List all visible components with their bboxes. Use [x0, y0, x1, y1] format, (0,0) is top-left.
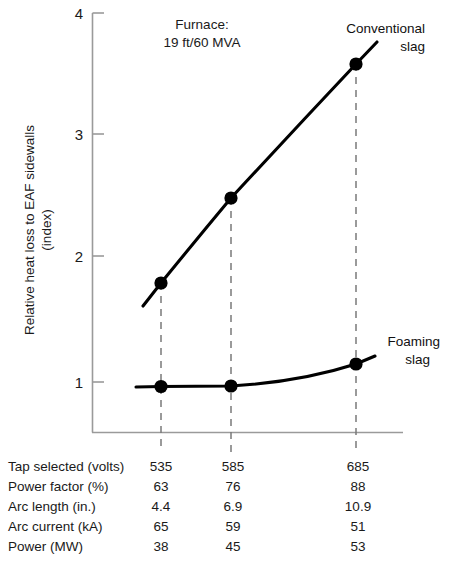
- table-cell-value: 59: [225, 519, 240, 534]
- table-row-label: Arc current (kA): [8, 519, 103, 534]
- table-cell-value: 685: [347, 459, 370, 474]
- y-tick-label-4: 4: [75, 5, 83, 22]
- conventional-slag-point-3: [349, 57, 362, 70]
- furnace-annotation-line1: Furnace:: [175, 17, 228, 32]
- y-axis-title-line2: (index): [39, 209, 54, 250]
- table-cell-value: 4.4: [152, 499, 171, 514]
- table-row-label: Power factor (%): [8, 479, 109, 494]
- table-row: Power (MW) 38 45 53: [8, 539, 366, 554]
- conventional-slag-line: [143, 42, 377, 306]
- table-row: Arc current (kA) 65 59 51: [8, 519, 366, 534]
- data-table: Tap selected (volts) 535 585 685 Power f…: [8, 459, 371, 554]
- table-row: Power factor (%) 63 76 88: [8, 479, 366, 494]
- y-tick-label-2: 2: [75, 248, 83, 265]
- table-cell-value: 51: [350, 519, 365, 534]
- table-row-label: Tap selected (volts): [8, 459, 124, 474]
- y-tick-label-3: 3: [75, 126, 83, 143]
- table-row-label: Power (MW): [8, 539, 83, 554]
- foaming-slag-point-2: [224, 379, 237, 392]
- table-cell-value: 65: [153, 519, 168, 534]
- table-cell-value: 63: [153, 479, 168, 494]
- conventional-slag-label-line1: Conventional: [346, 21, 425, 36]
- table-cell-value: 6.9: [224, 499, 243, 514]
- y-axis-title-line1: Relative heat loss to EAF sidewalls: [22, 125, 37, 335]
- table-cell-value: 38: [153, 539, 168, 554]
- foaming-slag-label: Foaming slag: [387, 334, 440, 367]
- foaming-slag-point-1: [154, 380, 167, 393]
- table-row-label: Arc length (in.): [8, 499, 96, 514]
- table-cell-value: 45: [225, 539, 240, 554]
- table-cell-value: 535: [150, 459, 173, 474]
- conventional-slag-point-2: [224, 191, 237, 204]
- table-cell-value: 88: [350, 479, 365, 494]
- chart-canvas: 4 3 2 1 Relative heat loss to EAF sidewa…: [0, 0, 463, 572]
- conventional-slag-label-line2: slag: [400, 39, 425, 54]
- table-cell-value: 10.9: [345, 499, 371, 514]
- table-row: Arc length (in.) 4.4 6.9 10.9: [8, 499, 371, 514]
- table-cell-value: 53: [350, 539, 365, 554]
- foaming-slag-line: [136, 356, 375, 387]
- furnace-annotation: Furnace: 19 ft/60 MVA: [163, 17, 240, 50]
- conventional-slag-point-1: [154, 276, 167, 289]
- table-cell-value: 76: [225, 479, 240, 494]
- foaming-slag-label-line1: Foaming: [387, 334, 440, 349]
- table-cell-value: 585: [222, 459, 245, 474]
- foaming-slag-label-line2: slag: [405, 352, 430, 367]
- y-tick-label-1: 1: [75, 374, 83, 391]
- y-axis-title: Relative heat loss to EAF sidewalls (ind…: [22, 125, 54, 335]
- furnace-annotation-line2: 19 ft/60 MVA: [163, 35, 240, 50]
- table-row: Tap selected (volts) 535 585 685: [8, 459, 369, 474]
- conventional-slag-label: Conventional slag: [346, 21, 425, 54]
- chart-figure: 4 3 2 1 Relative heat loss to EAF sidewa…: [0, 0, 463, 572]
- foaming-slag-point-3: [349, 357, 362, 370]
